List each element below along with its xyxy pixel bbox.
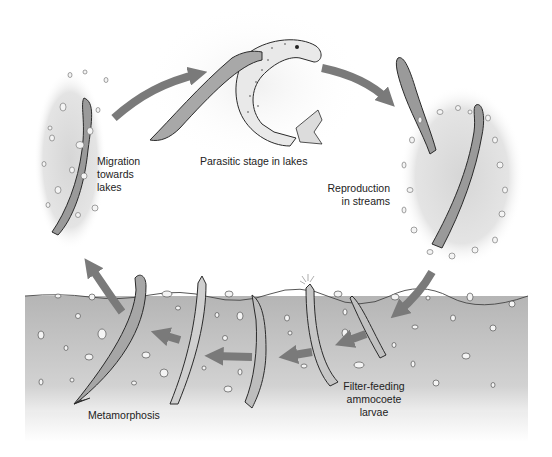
label-line: Migration xyxy=(97,155,140,168)
label-line: Reproduction xyxy=(318,182,390,195)
diagram-artwork xyxy=(0,0,552,457)
label-reproduction: Reproduction in streams xyxy=(318,182,390,208)
reproduction-stage-illustration xyxy=(396,58,524,266)
label-line: ammocoete xyxy=(339,393,409,406)
label-line: Parasitic stage in lakes xyxy=(200,155,307,168)
label-line: larvae xyxy=(339,406,409,419)
label-filter-feeding-larvae: Filter-feeding ammocoete larvae xyxy=(339,380,409,419)
arrow-larvae-to-larvae-2 xyxy=(288,352,312,356)
lamprey-life-cycle-diagram: Migration towards lakes Parasitic stage … xyxy=(0,0,552,457)
filter-feeding-cilia-icon xyxy=(300,274,314,284)
label-parasitic-stage: Parasitic stage in lakes xyxy=(200,155,307,168)
label-line: lakes xyxy=(97,181,140,194)
label-line: towards xyxy=(97,168,140,181)
label-metamorphosis: Metamorphosis xyxy=(88,409,160,422)
label-line: Metamorphosis xyxy=(88,409,160,422)
label-migration: Migration towards lakes xyxy=(97,155,140,194)
label-line: Filter-feeding xyxy=(339,380,409,393)
arrow-larvae-to-larvae-3 xyxy=(214,356,252,357)
label-line: in streams xyxy=(318,195,390,208)
